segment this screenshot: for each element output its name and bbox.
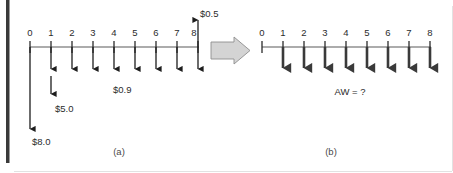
cash-flow-figure: 0 1 2 3 4 5 6 7 8 xyxy=(0,0,453,173)
tick-label: 3 xyxy=(90,27,95,38)
panel-a-tick-labels: 0 1 2 3 4 5 6 7 8 xyxy=(27,27,196,38)
tick-label: 2 xyxy=(69,27,74,38)
salvage-value-label: $0.5 xyxy=(200,8,219,19)
annual-worth-label: AW = ? xyxy=(334,86,365,97)
panel-b: 0 1 2 3 4 5 6 7 8 AW xyxy=(259,27,432,157)
tick-label: 8 xyxy=(191,27,196,38)
tick-label: 4 xyxy=(111,27,116,38)
panel-a: 0 1 2 3 4 5 6 7 8 xyxy=(27,8,218,157)
tick-label: 3 xyxy=(322,27,327,38)
tick-label: 7 xyxy=(406,27,411,38)
tick-label: 1 xyxy=(48,27,53,38)
panel-b-cash-flows xyxy=(283,47,430,68)
figure-canvas: 0 1 2 3 4 5 6 7 8 xyxy=(0,0,453,173)
annual-operating-cost-label: $0.9 xyxy=(113,84,132,95)
tick-label: 0 xyxy=(27,27,32,38)
tick-label: 6 xyxy=(385,27,390,38)
overhaul-cost-label: $5.0 xyxy=(55,103,74,114)
panel-a-caption: (a) xyxy=(113,146,125,157)
tick-label: 0 xyxy=(259,27,264,38)
tick-label: 6 xyxy=(153,27,158,38)
panel-b-tick-labels: 0 1 2 3 4 5 6 7 8 xyxy=(259,27,432,38)
right-block-arrow xyxy=(211,37,250,64)
tick-label: 1 xyxy=(280,27,285,38)
tick-label: 4 xyxy=(343,27,348,38)
panel-b-caption: (b) xyxy=(325,146,337,157)
tick-label: 2 xyxy=(301,27,306,38)
tick-label: 5 xyxy=(364,27,369,38)
tick-label: 8 xyxy=(427,27,432,38)
page-edge-bar xyxy=(6,0,10,163)
tick-label: 7 xyxy=(174,27,179,38)
first-cost-label: $8.0 xyxy=(32,136,51,147)
tick-label: 5 xyxy=(132,27,137,38)
